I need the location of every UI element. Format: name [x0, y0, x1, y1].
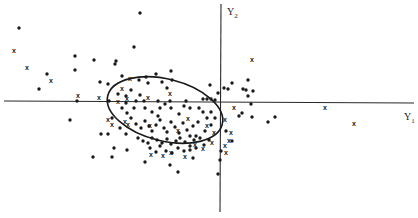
data-point-cross: x: [120, 85, 124, 92]
data-point-dot: [201, 110, 204, 113]
data-point-cross: x: [352, 120, 356, 127]
data-point-dot: [219, 149, 222, 152]
data-point-dot: [185, 128, 188, 131]
data-point-dot: [17, 26, 20, 29]
data-point-dot: [222, 86, 225, 89]
data-point-cross: x: [161, 152, 165, 159]
data-point-dot: [146, 141, 149, 144]
data-point-dot: [250, 115, 253, 118]
data-point-dot: [158, 144, 161, 147]
data-point-dot: [169, 106, 172, 109]
data-point-cross: x: [97, 94, 101, 101]
data-point-dot: [216, 172, 219, 175]
data-point-dot: [37, 87, 40, 90]
data-point-dot: [213, 98, 216, 101]
data-point-dot: [160, 141, 163, 144]
data-point-dot: [184, 99, 187, 102]
data-point-cross: x: [12, 47, 16, 54]
data-point-dot: [194, 134, 197, 137]
data-point-dot: [251, 89, 254, 92]
data-point-cross: x: [201, 145, 205, 152]
data-point-cross: x: [116, 98, 120, 105]
data-point-dot: [177, 112, 180, 115]
data-point-dot: [160, 80, 163, 83]
data-point-dot: [188, 144, 191, 147]
data-point-cross: x: [49, 77, 53, 84]
scatter-plot: Y2 Y1 xxxxxxxxxxxxxxxxxxxxxxxxxxxxxxxxxx…: [0, 0, 418, 218]
data-point-cross: x: [186, 115, 190, 122]
data-point-dot: [241, 87, 244, 90]
data-point-dot: [124, 101, 127, 104]
data-point-dot: [191, 156, 194, 159]
data-point-dot: [125, 111, 128, 114]
data-point-dot: [143, 106, 146, 109]
data-point-dot: [138, 93, 141, 96]
data-point-dot: [169, 69, 172, 72]
data-point-dot: [143, 160, 146, 163]
data-point-dot: [129, 116, 132, 119]
data-point-dot: [205, 97, 208, 100]
data-point-dot: [209, 110, 212, 113]
data-point-dot: [273, 115, 276, 118]
data-point-dot: [155, 138, 158, 141]
data-point-dot: [205, 116, 208, 119]
data-point-dot: [165, 137, 168, 140]
data-point-dot: [158, 118, 161, 121]
data-point-dot: [138, 11, 141, 14]
axes: Y2 Y1: [4, 4, 415, 212]
data-point-dot: [266, 120, 269, 123]
data-point-dot: [169, 142, 172, 145]
data-point-cross: x: [224, 149, 228, 156]
data-point-dot: [124, 132, 127, 135]
data-point-dot: [137, 78, 140, 81]
data-point-cross: x: [183, 153, 187, 160]
data-point-dot: [136, 136, 139, 139]
data-point-dot: [144, 75, 147, 78]
data-point-dot: [170, 78, 173, 81]
data-point-dot: [174, 139, 177, 142]
data-point-dot: [163, 102, 166, 105]
data-point-dot: [154, 72, 157, 75]
data-point-cross: x: [168, 90, 172, 97]
data-point-cross: x: [223, 142, 227, 149]
data-point-dot: [209, 123, 212, 126]
data-point-dot: [150, 110, 153, 113]
data-point-dot: [150, 129, 153, 132]
data-point-dot: [246, 94, 249, 97]
data-point-cross: x: [146, 94, 150, 101]
data-point-dot: [246, 78, 249, 81]
data-point-dot: [162, 126, 165, 129]
data-point-dot: [107, 99, 110, 102]
data-point-dot: [188, 148, 191, 151]
data-point-cross: x: [229, 129, 233, 136]
data-point-cross: x: [223, 116, 227, 123]
data-point-dot: [249, 102, 252, 105]
data-point-dot: [129, 88, 132, 91]
data-point-dot: [106, 132, 109, 135]
data-point-dot: [141, 139, 144, 142]
data-point-cross: x: [128, 75, 132, 82]
data-point-dot: [183, 140, 186, 143]
data-point-cross: x: [25, 64, 29, 71]
data-point-dot: [176, 146, 179, 149]
data-point-dot: [132, 106, 135, 109]
data-point-dot: [218, 158, 221, 161]
data-point-dot: [91, 155, 94, 158]
data-point-dot: [112, 146, 115, 149]
data-point-dot: [209, 97, 212, 100]
data-point-dot: [92, 58, 95, 61]
data-point-dot: [45, 72, 48, 75]
data-point-dot: [134, 122, 137, 125]
data-point-dot: [98, 80, 101, 83]
data-point-dot: [73, 68, 76, 71]
data-point-cross: x: [126, 121, 130, 128]
y1-axis-label: Y1: [404, 111, 415, 125]
data-point-cross: x: [323, 104, 327, 111]
data-point-dot: [75, 99, 78, 102]
data-point-dot: [150, 136, 153, 139]
y2-axis-label: Y2: [227, 6, 238, 20]
data-point-dot: [182, 104, 185, 107]
data-point-dot: [110, 116, 113, 119]
data-point-dot: [196, 120, 199, 123]
data-point-dot: [118, 126, 121, 129]
